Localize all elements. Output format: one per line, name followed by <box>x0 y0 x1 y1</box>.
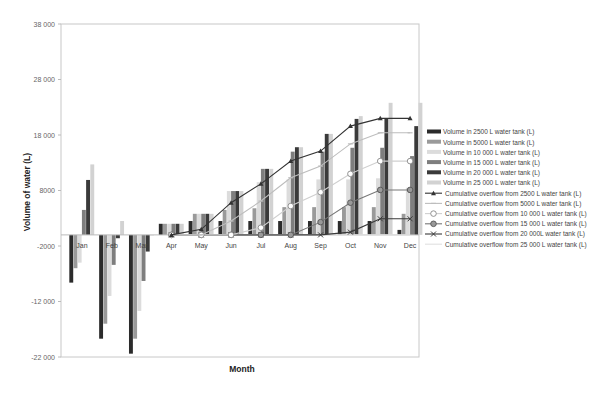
y-tick-label: 28 000 <box>34 76 56 83</box>
open-circle-marker-icon <box>258 225 264 231</box>
legend-item: Cumulative overflow from 10 000 L water … <box>425 210 587 218</box>
filled-circle-marker-icon <box>377 187 383 193</box>
bar <box>312 207 316 235</box>
legend-item: Cumulative overflow from 2500 L water ta… <box>425 190 581 198</box>
month-label: Mar <box>136 242 149 249</box>
open-circle-marker-icon <box>318 189 324 195</box>
y-tick-label: -22 000 <box>31 354 55 361</box>
legend-label: Cumulative overflow from 5000 L water ta… <box>445 200 581 208</box>
legend-label: Volume in 20 000 L water tank (L) <box>443 169 540 177</box>
bar <box>223 210 227 235</box>
bar <box>129 235 133 354</box>
bar <box>248 221 252 235</box>
month-label: Jul <box>256 242 265 249</box>
y-tick-label: -12 000 <box>31 298 55 305</box>
y-axis-title: Volume of water (L) <box>22 153 32 231</box>
bar <box>316 179 320 235</box>
bar <box>308 221 312 235</box>
bar <box>402 214 406 235</box>
legend: Volume in 2500 L water tank (L)Volume in… <box>425 128 587 248</box>
bar <box>350 148 354 235</box>
month-label: Nov <box>374 242 387 249</box>
bar <box>418 103 422 235</box>
legend-item: Cumulative overflow from 5000 L water ta… <box>425 200 581 208</box>
bar <box>325 134 329 235</box>
bar <box>69 235 73 283</box>
filled-circle-marker-icon <box>318 219 324 225</box>
y-tick-label: 38 000 <box>34 21 56 28</box>
filled-circle-marker-icon <box>431 221 437 227</box>
legend-label: Volume in 10 000 L water tank (L) <box>443 149 540 157</box>
legend-swatch <box>427 150 441 154</box>
chart: 38 00028 00018 0008000-2000-12 000-22 00… <box>0 0 602 393</box>
month-label: Aug <box>285 242 298 250</box>
legend-item: Volume in 25 000 L water tank (L) <box>427 179 540 187</box>
bar <box>90 164 94 234</box>
bar <box>414 126 418 235</box>
legend-item: Cumulative overflow from 15 000 L water … <box>425 220 587 228</box>
filled-circle-marker-icon <box>407 187 413 193</box>
legend-item: Cumulative overflow from 20 000L water t… <box>425 230 585 238</box>
month-label: Oct <box>345 242 356 249</box>
legend-swatch <box>427 170 441 174</box>
bar <box>359 116 363 235</box>
legend-label: Volume in 5000 L water tank (L) <box>443 139 535 147</box>
legend-label: Cumulative overflow from 20 000L water t… <box>445 230 585 238</box>
legend-label: Volume in 2500 L water tank (L) <box>443 128 535 136</box>
open-circle-marker-icon <box>348 171 354 177</box>
bar <box>86 180 90 235</box>
month-label: Feb <box>106 242 118 249</box>
legend-label: Cumulative overflow from 15 000 L water … <box>445 220 587 228</box>
bar <box>159 224 163 235</box>
legend-label: Cumulative overflow from 10 000 L water … <box>445 210 587 218</box>
bar <box>389 103 393 235</box>
bar <box>82 210 86 235</box>
legend-swatch <box>427 181 441 185</box>
legend-item: Volume in 5000 L water tank (L) <box>427 139 535 147</box>
month-label: Jan <box>76 242 87 249</box>
bar <box>112 235 116 265</box>
filled-circle-marker-icon <box>288 232 294 238</box>
bar <box>99 235 103 339</box>
bar <box>299 147 303 235</box>
bar <box>218 221 222 235</box>
bar <box>74 235 78 268</box>
y-tick-label: -2000 <box>37 243 55 250</box>
plot-area <box>61 24 419 357</box>
bar <box>163 224 167 235</box>
legend-label: Cumulative overflow from 2500 L water ta… <box>445 190 581 198</box>
bar <box>384 118 388 235</box>
bar <box>278 221 282 235</box>
bar <box>342 207 346 235</box>
bar <box>253 208 257 235</box>
open-circle-marker-icon <box>228 232 234 238</box>
y-tick-label: 8000 <box>39 187 55 194</box>
bar <box>410 156 414 235</box>
month-label: Jun <box>225 242 236 249</box>
bar <box>291 152 295 235</box>
legend-item: Volume in 15 000 L water tank (L) <box>427 159 540 167</box>
bar <box>197 214 201 235</box>
bar <box>346 179 350 235</box>
bar <box>189 221 193 235</box>
filled-circle-marker-icon <box>258 232 264 238</box>
y-axis: 38 00028 00018 0008000-2000-12 000-22 00… <box>31 21 61 361</box>
legend-item: Cumulative overflow from 25 000 L water … <box>425 241 587 249</box>
legend-swatch <box>427 140 441 144</box>
legend-label: Cumulative overflow from 25 000 L water … <box>445 241 587 249</box>
bar <box>133 235 137 339</box>
open-circle-marker-icon <box>407 158 413 164</box>
x-axis-title: Month <box>229 364 255 374</box>
legend-item: Volume in 10 000 L water tank (L) <box>427 149 540 157</box>
month-label: Apr <box>166 242 178 250</box>
bar <box>231 191 235 235</box>
open-circle-marker-icon <box>288 203 294 209</box>
legend-item: Volume in 20 000 L water tank (L) <box>427 169 540 177</box>
bar <box>120 221 124 235</box>
bar <box>227 191 231 235</box>
open-circle-marker-icon <box>431 211 437 217</box>
legend-item: Volume in 2500 L water tank (L) <box>427 128 535 136</box>
bar <box>269 169 273 235</box>
bar <box>406 188 410 235</box>
legend-label: Volume in 15 000 L water tank (L) <box>443 159 540 167</box>
